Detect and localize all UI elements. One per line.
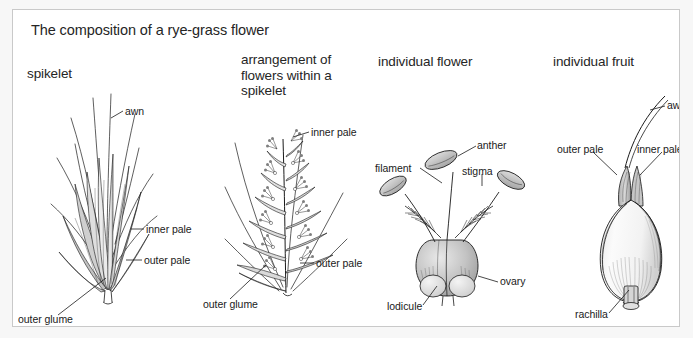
label-inner-pale: inner pale [637, 143, 680, 155]
leader-ovary [478, 276, 498, 282]
individual-fruit-leaders [537, 10, 680, 327]
leader-rachilla [609, 290, 629, 313]
label-outer-pale: outer pale [144, 254, 190, 266]
label-rachilla: rachilla [575, 308, 608, 320]
leader-inner-pale [640, 152, 662, 175]
spikelet-leaders [13, 10, 193, 327]
label-outer-pale: outer pale [557, 143, 603, 155]
figure-frame: The composition of a rye-grass flower sp… [12, 9, 680, 327]
panel-arrangement: arrangement of flowers within a spikelet [193, 10, 373, 326]
arrangement-leaders [193, 10, 373, 327]
panel-spikelet: spikelet [13, 10, 193, 326]
label-inner-pale: inner pale [146, 223, 192, 235]
label-outer-pale: outer pale [316, 257, 362, 269]
leader-awn [111, 111, 123, 118]
label-outer-glume: outer glume [203, 298, 258, 310]
leader-filament [420, 168, 442, 183]
label-awn: awn [667, 99, 680, 111]
label-filament: filament [375, 162, 411, 174]
label-ovary: ovary [500, 275, 525, 287]
leader-outer-pale [593, 152, 617, 175]
label-outer-glume: outer glume [18, 313, 73, 325]
panel-individual-fruit: individual fruit [537, 10, 680, 326]
panel-individual-flower: individual flower [365, 10, 545, 326]
label-anther: anther [477, 139, 506, 151]
label-awn: awn [125, 105, 144, 117]
label-lodicule: lodicule [387, 300, 422, 312]
label-stigma: stigma [462, 165, 493, 177]
leader-anther [458, 146, 476, 156]
figure-container: The composition of a rye-grass flower sp… [0, 0, 693, 338]
leader-outer-glume [230, 265, 266, 299]
leader-lodicule [423, 286, 437, 305]
leader-inner-pale [293, 132, 309, 137]
label-inner-pale: inner pale [311, 126, 357, 138]
leader-awn [650, 106, 665, 110]
leader-outer-glume [58, 278, 106, 315]
